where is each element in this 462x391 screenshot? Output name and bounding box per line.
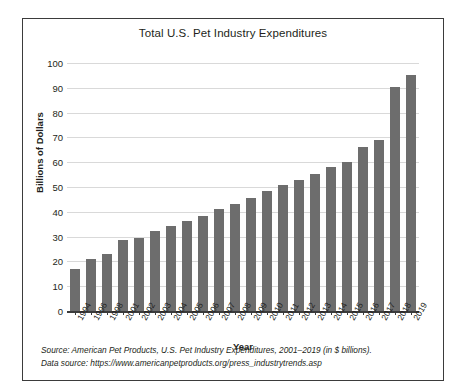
bar-2009[interactable] xyxy=(246,198,256,311)
bar-2001[interactable] xyxy=(118,240,128,311)
bar-slot-2008 xyxy=(227,63,243,311)
bar-2006[interactable] xyxy=(198,216,208,311)
y-tick-label-100: 100 xyxy=(47,58,63,69)
bar-slot-2016 xyxy=(355,63,371,311)
bar-1994[interactable] xyxy=(70,269,80,311)
bar-2015[interactable] xyxy=(342,162,352,311)
bar-2002[interactable] xyxy=(134,238,144,311)
bar-slot-2005 xyxy=(179,63,195,311)
bar-slot-2010 xyxy=(259,63,275,311)
bar-slot-2015 xyxy=(339,63,355,311)
y-tick-label-30: 30 xyxy=(52,231,63,242)
bar-2013[interactable] xyxy=(310,174,320,311)
y-tick-label-90: 90 xyxy=(52,82,63,93)
bar-slot-2017 xyxy=(371,63,387,311)
y-tick-label-60: 60 xyxy=(52,157,63,168)
bar-2019[interactable] xyxy=(406,75,416,311)
bar-slot-2009 xyxy=(243,63,259,311)
source-line-1: Source: American Pet Products, U.S. Pet … xyxy=(41,344,431,357)
bar-slot-1998 xyxy=(99,63,115,311)
plot-area xyxy=(67,63,419,311)
bar-2008[interactable] xyxy=(230,204,240,311)
y-tick-label-10: 10 xyxy=(52,281,63,292)
source-line-2: Data source: https://www.americanpetprod… xyxy=(41,357,431,370)
y-tick-label-50: 50 xyxy=(52,182,63,193)
source-note: Source: American Pet Products, U.S. Pet … xyxy=(41,344,431,370)
bar-2011[interactable] xyxy=(278,185,288,311)
bar-2003[interactable] xyxy=(150,231,160,311)
y-tick-label-40: 40 xyxy=(52,206,63,217)
bar-series xyxy=(67,63,419,311)
bar-2007[interactable] xyxy=(214,209,224,311)
bar-2010[interactable] xyxy=(262,191,272,311)
bar-2005[interactable] xyxy=(182,221,192,311)
bar-slot-2013 xyxy=(307,63,323,311)
bar-slot-2001 xyxy=(115,63,131,311)
bar-2016[interactable] xyxy=(358,147,368,311)
bar-slot-2011 xyxy=(275,63,291,311)
y-axis-tick-labels: 0102030405060708090100 xyxy=(27,63,63,311)
bar-2017[interactable] xyxy=(374,140,384,311)
y-tick-label-20: 20 xyxy=(52,256,63,267)
y-tick-label-0: 0 xyxy=(58,306,63,317)
bar-slot-2004 xyxy=(163,63,179,311)
y-tick-label-80: 80 xyxy=(52,107,63,118)
chart-title: Total U.S. Pet Industry Expenditures xyxy=(23,27,443,39)
chart-figure-frame: Total U.S. Pet Industry Expenditures Bil… xyxy=(22,18,444,381)
bar-slot-2019 xyxy=(403,63,419,311)
bar-slot-1994 xyxy=(67,63,83,311)
bar-slot-2006 xyxy=(195,63,211,311)
bar-slot-2003 xyxy=(147,63,163,311)
y-tick-label-70: 70 xyxy=(52,132,63,143)
bar-slot-2012 xyxy=(291,63,307,311)
bar-slot-1996 xyxy=(83,63,99,311)
bar-slot-2007 xyxy=(211,63,227,311)
bar-2018[interactable] xyxy=(390,87,400,311)
bar-2014[interactable] xyxy=(326,167,336,311)
bar-2012[interactable] xyxy=(294,180,304,311)
bar-2004[interactable] xyxy=(166,226,176,311)
bar-slot-2018 xyxy=(387,63,403,311)
bar-slot-2014 xyxy=(323,63,339,311)
bar-slot-2002 xyxy=(131,63,147,311)
